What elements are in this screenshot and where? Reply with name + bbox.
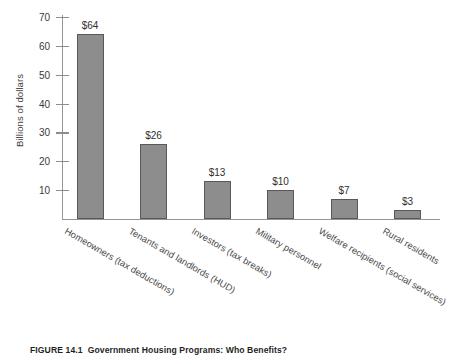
y-tick-label-30: 30 (22, 127, 50, 138)
x-axis-label: Military personnel (254, 226, 323, 272)
y-tick-label-50: 50 (22, 69, 50, 80)
y-tick-label-10: 10 (22, 185, 50, 196)
bar-value-label: $7 (338, 185, 349, 196)
bar-value-label: $10 (272, 176, 289, 187)
x-axis-line (62, 219, 440, 220)
bar (140, 144, 167, 219)
x-axis-label: Homeowners (tax deductions) (63, 226, 176, 297)
figure-caption: FIGURE 14.1 Government Housing Programs:… (30, 345, 287, 355)
bar-value-label: $64 (82, 20, 99, 31)
bar (204, 181, 231, 219)
y-tick-label-20: 20 (22, 156, 50, 167)
x-axis-label: Rural residents (381, 226, 441, 266)
y-tick-10 (56, 190, 69, 191)
y-tick-50 (56, 75, 69, 76)
figure-container: Billions of dollars 10203040506070 $64$2… (0, 0, 450, 356)
bar (77, 34, 104, 219)
bar-value-label: $13 (209, 167, 226, 178)
bar (267, 190, 294, 219)
y-tick-70 (56, 17, 69, 18)
y-tick-40 (56, 104, 69, 105)
x-axis-label: Welfare recipients (social services) (317, 226, 448, 307)
bar-chart: Billions of dollars 10203040506070 $64$2… (0, 0, 450, 232)
bar-value-label: $26 (145, 130, 162, 141)
x-axis-label: Tenants and landlords (HUD) (127, 226, 237, 295)
figure-number: FIGURE 14.1 (30, 345, 83, 355)
bar (394, 210, 421, 219)
y-tick-label-40: 40 (22, 98, 50, 109)
y-tick-label-60: 60 (22, 40, 50, 51)
y-tick-20 (56, 161, 69, 162)
figure-title: Government Housing Programs: Who Benefit… (88, 345, 288, 355)
bar (331, 199, 358, 219)
bar-value-label: $3 (402, 196, 413, 207)
y-tick-label-70: 70 (22, 12, 50, 23)
y-tick-60 (56, 46, 69, 47)
y-tick-30 (56, 132, 69, 133)
